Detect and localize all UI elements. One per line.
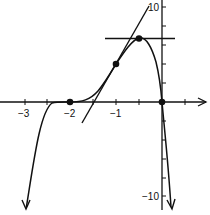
point-origin — [159, 99, 166, 106]
x-tick-label-neg2: −2 — [64, 108, 76, 119]
point-neg2-0 — [67, 99, 74, 106]
x-tick-label-neg3: −3 — [18, 108, 30, 119]
point-neg1-4 — [113, 61, 120, 68]
function-graph: −3 −2 −1 10 −10 — [0, 0, 210, 215]
function-curve — [26, 38, 171, 207]
y-tick-label-10: 10 — [148, 2, 160, 13]
y-tick-label-neg10: −10 — [142, 191, 159, 202]
x-tick-label-neg1: −1 — [110, 108, 122, 119]
point-neg0.5-6.75 — [136, 35, 143, 42]
curve-left-arrow-icon — [22, 200, 30, 209]
